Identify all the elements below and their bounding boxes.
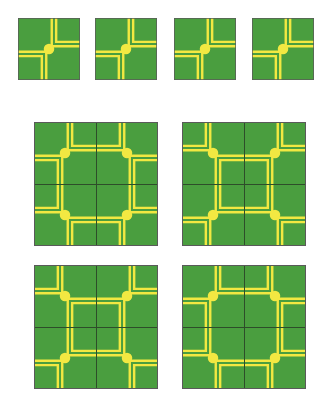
center-dot [208,291,219,302]
grid-cell-3 [182,184,244,246]
grid-cell-1 [182,122,244,184]
center-dot [122,148,133,159]
center-dot [200,44,211,55]
center-dot [208,210,219,221]
grid-cell-2 [244,122,306,184]
grid-bottom-right [182,265,306,389]
center-dot [278,44,289,55]
grid-seam-horizontal [34,327,158,328]
center-dot [60,291,71,302]
grid-top-right [182,122,306,246]
center-dot [122,291,133,302]
tile [244,184,306,246]
single-tile-3 [174,18,236,80]
grid-cell-1 [34,122,96,184]
tile [34,327,96,389]
center-dot [60,210,71,221]
center-dot [270,148,281,159]
tile [96,184,158,246]
center-dot [122,210,133,221]
center-dot [121,44,132,55]
tile [34,184,96,246]
tile [182,184,244,246]
grid-cell-2 [96,265,158,327]
tile [244,265,306,327]
tile [182,122,244,184]
tile [96,265,158,327]
tile [244,122,306,184]
grid-cell-1 [182,265,244,327]
grid-cell-3 [182,327,244,389]
grid-cell-4 [96,327,158,389]
tile [182,265,244,327]
center-dot [122,353,133,364]
grid-cell-4 [244,327,306,389]
grid-bottom-left [34,265,158,389]
grid-cell-2 [96,122,158,184]
tile [18,18,80,80]
tile [95,18,157,80]
center-dot [270,291,281,302]
grid-cell-4 [244,184,306,246]
center-dot [208,148,219,159]
tile [34,122,96,184]
single-tile-4 [252,18,314,80]
grid-top-left [34,122,158,246]
grid-seam-horizontal [34,184,158,185]
grid-cell-2 [244,265,306,327]
grid-seam-horizontal [182,327,306,328]
center-dot [208,353,219,364]
tile [34,265,96,327]
tile [174,18,236,80]
center-dot [270,353,281,364]
grid-seam-horizontal [182,184,306,185]
single-tile-1 [18,18,80,80]
grid-cell-1 [34,265,96,327]
grid-cell-3 [34,184,96,246]
single-tile-2 [95,18,157,80]
tile [244,327,306,389]
center-dot [60,148,71,159]
tile [252,18,314,80]
tile [96,122,158,184]
grid-cell-4 [96,184,158,246]
center-dot [270,210,281,221]
center-dot [60,353,71,364]
tile [182,327,244,389]
grid-cell-3 [34,327,96,389]
tile-pattern-figure [0,0,336,403]
center-dot [44,44,55,55]
tile [96,327,158,389]
